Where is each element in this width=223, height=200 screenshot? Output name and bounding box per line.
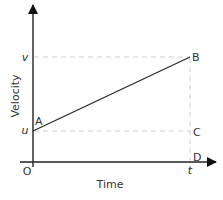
tick-label-v: v — [22, 51, 29, 64]
point-label-c: C — [193, 126, 201, 139]
point-label-d: D — [193, 151, 201, 164]
dashed-guides — [34, 57, 190, 170]
y-axis-label: Velocity — [9, 74, 22, 118]
tick-label-u: u — [22, 124, 29, 137]
velocity-time-graph: v u A B C D t O Time Velocity — [0, 0, 223, 200]
origin-label: O — [23, 165, 32, 178]
point-label-a: A — [35, 115, 43, 128]
tick-label-t: t — [188, 164, 193, 177]
point-label-b: B — [192, 51, 200, 64]
velocity-line-ab — [33, 57, 190, 131]
x-axis-label: Time — [96, 178, 124, 191]
